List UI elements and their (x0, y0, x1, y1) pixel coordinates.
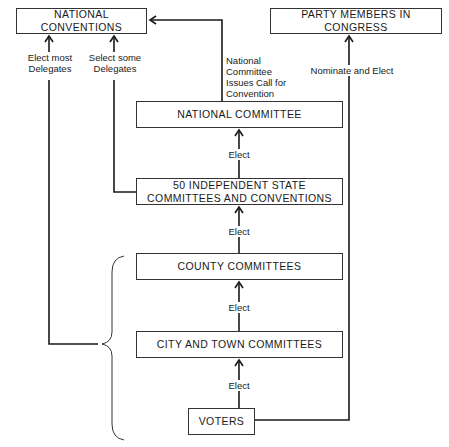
label-nominate-elect: Nominate and Elect (307, 65, 397, 76)
local-level-bracket (102, 256, 124, 440)
node-national-conventions: NATIONAL CONVENTIONS (16, 8, 147, 34)
node-party-members-congress: PARTY MEMBERS IN CONGRESS (270, 8, 442, 34)
node-state-committees: 50 INDEPENDENT STATE COMMITTEES AND CONV… (136, 178, 343, 205)
label-line: Committee (226, 66, 296, 77)
label-elect-voters-city: Elect (224, 380, 254, 391)
label-line: Delegates (84, 63, 146, 74)
node-county-committees: COUNTY COMMITTEES (136, 253, 343, 280)
node-city-town-committees: CITY AND TOWN COMMITTEES (136, 331, 343, 358)
call-for-convention-line (151, 20, 222, 101)
label-line: Delegates (20, 63, 80, 74)
label-line: National (226, 55, 296, 66)
label-elect-most-delegates: Elect most Delegates (20, 52, 80, 74)
node-national-committee: NATIONAL COMMITTEE (136, 101, 343, 128)
node-voters: VOTERS (188, 408, 255, 435)
label-line: Issues Call for (226, 77, 296, 88)
select-some-delegates-line (114, 80, 136, 192)
node-state-line1: 50 INDEPENDENT STATE (173, 179, 306, 192)
label-elect-city-county: Elect (224, 302, 254, 313)
node-state-line2: COMMITTEES AND CONVENTIONS (147, 192, 332, 205)
elect-most-delegates-line (49, 80, 98, 344)
label-elect-state-national: Elect (224, 149, 254, 160)
label-line: Select some (84, 52, 146, 63)
label-elect-county-state: Elect (224, 226, 254, 237)
label-select-some-delegates: Select some Delegates (84, 52, 146, 74)
label-line: Convention (226, 88, 296, 99)
label-line: Elect most (20, 52, 80, 63)
label-call-for-convention: National Committee Issues Call for Conve… (226, 55, 296, 99)
